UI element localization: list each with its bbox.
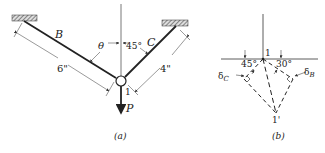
dim-b-ext-2 (106, 82, 114, 96)
dim-b-ext-1 (14, 23, 22, 37)
truss-diagram: B θ 45° C 6" 4" 1 P (a) 1 (0, 0, 325, 153)
bar-b-label: B (54, 28, 63, 41)
load-p-label: P (125, 102, 134, 115)
angle-right-label: 30° (276, 59, 292, 69)
bar-c-label: C (147, 36, 156, 49)
node-1 (116, 76, 126, 86)
perp-b-line (276, 79, 293, 113)
dim-c-ext-1 (180, 30, 190, 40)
node-1-label: 1 (125, 87, 131, 97)
theta-arrow-2 (90, 52, 100, 62)
delta-c-label: δC (218, 71, 229, 83)
perp-c-line (244, 79, 276, 113)
angle-arc-right (274, 70, 277, 74)
total-displacement-line (263, 59, 276, 113)
dim-b-line (17, 33, 58, 58)
theta-label: θ (98, 40, 104, 51)
angle-left-label: 45° (241, 59, 257, 69)
point-1-label: 1 (265, 48, 271, 58)
point-1 (262, 58, 265, 61)
length-c-label: 4" (160, 63, 171, 74)
right-angle-c (247, 76, 250, 82)
angle-c-label: 45° (126, 41, 142, 51)
delta-b-label: δB (304, 67, 315, 79)
right-angle-b (287, 76, 290, 82)
support-b-hatch (12, 15, 37, 21)
figure-a: B θ 45° C 6" 4" 1 P (a) (12, 4, 190, 141)
dim-c-line (172, 37, 187, 55)
delta-c-pointer (236, 75, 244, 76)
support-c-hatch (162, 20, 188, 26)
dim-c-line-2 (135, 68, 160, 92)
length-b-label: 6" (57, 63, 68, 74)
figure-b: 1 45° 30° δC δB 1' (b) (218, 14, 318, 141)
caption-a: (a) (114, 131, 127, 141)
caption-b: (b) (272, 131, 285, 141)
displaced-node-label: 1' (272, 115, 280, 125)
